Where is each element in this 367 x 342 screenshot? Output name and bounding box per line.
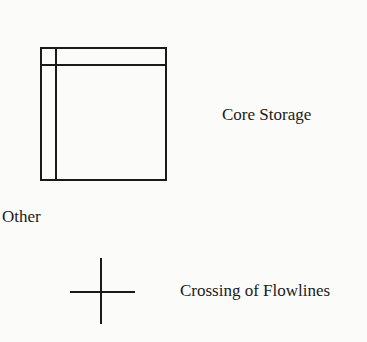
core-storage-label: Core Storage <box>222 105 311 125</box>
section-heading-other: Other <box>2 207 41 227</box>
crossing-of-flowlines-symbol <box>70 258 135 324</box>
crossing-of-flowlines-label: Crossing of Flowlines <box>180 281 330 301</box>
core-storage-outer-box <box>41 48 166 180</box>
core-storage-symbol <box>41 48 166 180</box>
